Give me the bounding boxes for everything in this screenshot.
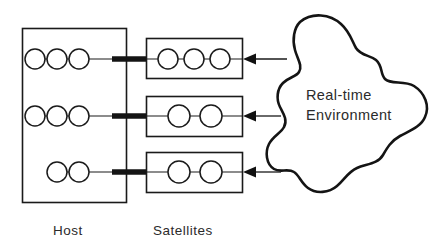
- environment-label-line2: Environment: [306, 107, 392, 123]
- host-node: [69, 49, 89, 69]
- host-caption: Host: [53, 223, 83, 238]
- satellite-node: [158, 49, 178, 69]
- arrow-head-icon: [243, 111, 256, 122]
- host-node: [25, 49, 45, 69]
- satellite-box-3: [146, 153, 243, 193]
- satellites-caption: Satellites: [153, 223, 213, 238]
- system-architecture-diagram: Real-time Environment: [0, 0, 447, 252]
- host-node: [47, 162, 67, 182]
- host-node: [47, 49, 67, 69]
- satellite-node: [168, 161, 190, 183]
- satellite-node: [210, 49, 230, 69]
- host-node: [25, 106, 45, 126]
- arrow-head-icon: [243, 167, 256, 178]
- satellite-node: [200, 161, 222, 183]
- satellite-node: [168, 105, 190, 127]
- environment-label-line1: Real-time: [306, 87, 372, 103]
- real-time-environment-blob: [267, 15, 427, 192]
- arrow-head-icon: [243, 54, 256, 65]
- satellite-box-2: [146, 97, 243, 137]
- environment-feed-arrow-1: [243, 54, 287, 65]
- environment-feed-arrow-2: [243, 111, 281, 122]
- host-node: [69, 162, 89, 182]
- satellite-box-1: [146, 39, 243, 79]
- satellite-node: [200, 105, 222, 127]
- host-node: [69, 106, 89, 126]
- satellite-node: [184, 49, 204, 69]
- diagram-canvas: Real-time Environment: [0, 0, 447, 252]
- host-node: [47, 106, 67, 126]
